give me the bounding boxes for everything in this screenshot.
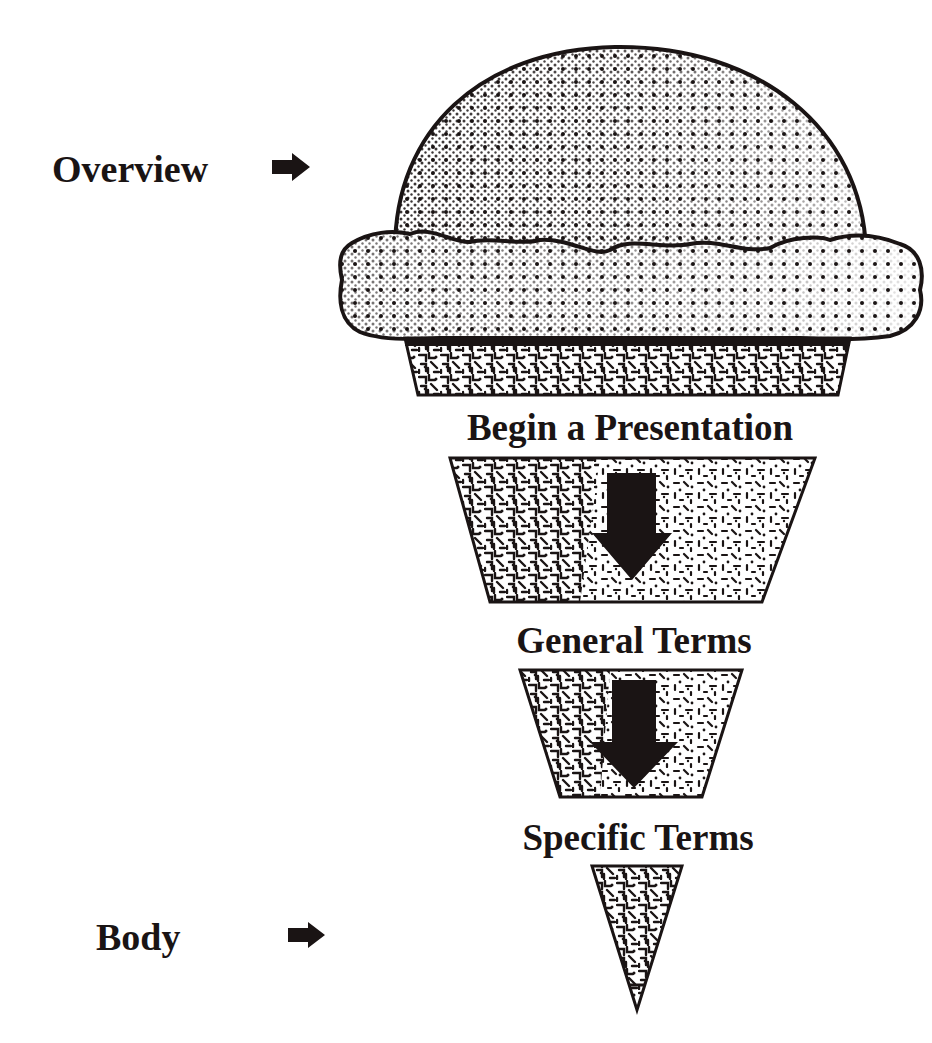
stage-specific-terms: Specific Terms: [522, 819, 753, 856]
overview-label: Overview: [52, 150, 208, 188]
body-label: Body: [96, 918, 180, 956]
right-arrow-icon: [288, 922, 325, 948]
right-arrow-icon: [272, 153, 310, 181]
cone-rim-band: [405, 338, 850, 395]
ice-cream-drip-band: [340, 232, 922, 340]
cone-tip: [592, 866, 682, 1010]
stage-general-terms: General Terms: [516, 622, 751, 659]
ice-cream-scoop: [395, 47, 866, 250]
stage-begin-presentation: Begin a Presentation: [467, 409, 793, 446]
